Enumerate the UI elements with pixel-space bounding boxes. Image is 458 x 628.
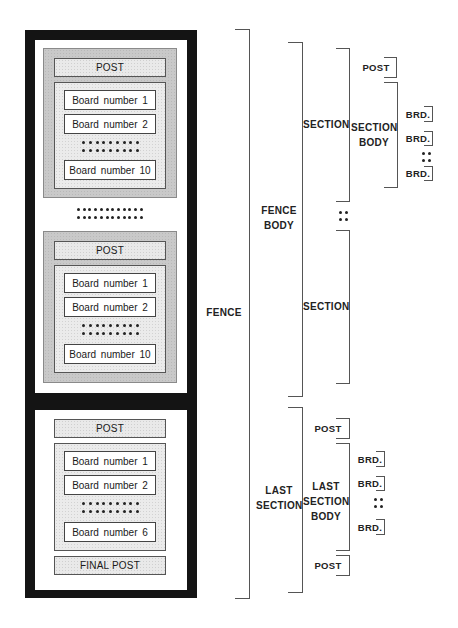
board-1: Board number 1 [64,90,156,110]
board-10: Board number 10 [64,344,156,364]
section-body-label: SECTION BODY [351,120,397,150]
boards-ellipsis [82,502,139,516]
board-1: Board number 1 [64,273,156,293]
post-label: POST [360,60,392,75]
last-section-label: LAST SECTION [256,483,302,513]
board-2: Board number 2 [64,114,156,134]
post-label: POST [96,423,124,434]
section-label: SECTION [303,117,349,132]
board-10: Board number 10 [64,160,156,180]
section-label: SECTION [303,299,349,314]
last-section-post: POST [54,419,166,438]
post-label: POST [96,245,124,256]
final-post: FINAL POST [54,556,166,575]
brd-label: BRD. [356,476,384,491]
boards-ellipsis [82,324,139,338]
brd-label: BRD. [404,107,432,122]
board-2: Board number 2 [64,297,156,317]
brd-label: BRD. [356,520,384,535]
fence-body-label: FENCE BODY [258,203,300,233]
fence-label: FENCE [206,305,242,320]
brd-ellipsis [422,152,431,162]
brd-label: BRD. [404,166,432,181]
last-section-body-label: LAST SECTION BODY [303,479,349,524]
final-post-label: FINAL POST [80,560,140,571]
section-ellipsis [339,211,348,221]
post-label: POST [96,62,124,73]
post-label: POST [312,421,344,436]
board-6: Board number 6 [64,522,156,542]
brd-label: BRD. [404,131,432,146]
boards-ellipsis [82,141,139,155]
board-2: Board number 2 [64,475,156,495]
section-1-post: POST [54,58,166,77]
post-label: POST [312,558,344,573]
sections-ellipsis [77,208,143,222]
brd-ellipsis [374,498,383,508]
board-1: Board number 1 [64,451,156,471]
brd-label: BRD. [356,452,384,467]
section-2-post: POST [54,241,166,260]
